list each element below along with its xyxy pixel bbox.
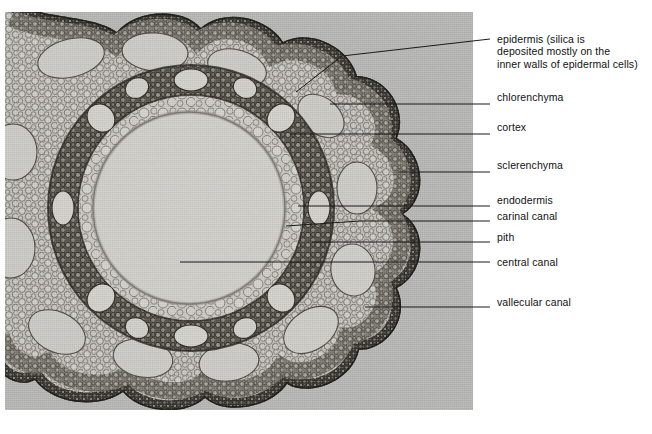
figure-page: epidermis (silica is deposited mostly on…: [0, 0, 652, 434]
leader-epidermis: [296, 39, 490, 92]
leader-carinal-canal: [286, 221, 490, 226]
label-vallecular-canal: vallecular canal: [497, 296, 571, 308]
label-endodermis: endodermis: [497, 194, 553, 206]
label-sclerenchyma: sclerenchyma: [497, 159, 563, 171]
label-central-canal: central canal: [497, 256, 558, 268]
label-carinal-canal: carinal canal: [497, 210, 557, 222]
label-pith: pith: [497, 231, 514, 243]
label-cortex: cortex: [497, 121, 526, 133]
label-epidermis: epidermis (silica is deposited mostly on…: [497, 33, 638, 70]
label-chlorenchyma: chlorenchyma: [497, 91, 564, 103]
